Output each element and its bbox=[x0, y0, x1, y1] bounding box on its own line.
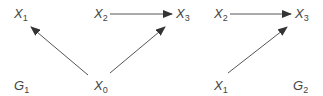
edge-g2-x1-x3 bbox=[228, 27, 287, 73]
node-g1-x0: X0 bbox=[94, 79, 108, 95]
node-g1-x2: X2 bbox=[94, 7, 108, 23]
node-g2-x1: X1 bbox=[214, 79, 228, 95]
graph-label-g2: G2 bbox=[293, 79, 308, 95]
graph-label-g1: G1 bbox=[14, 79, 29, 95]
edge-g1-x0-x1 bbox=[31, 27, 88, 75]
node-g1-x3: X3 bbox=[176, 7, 190, 23]
node-g2-x3: X3 bbox=[295, 7, 309, 23]
edge-g1-x0-x3 bbox=[110, 27, 165, 73]
diagram-edges bbox=[0, 0, 323, 96]
node-g2-x2: X2 bbox=[214, 7, 228, 23]
node-g1-x1: X1 bbox=[14, 7, 28, 23]
